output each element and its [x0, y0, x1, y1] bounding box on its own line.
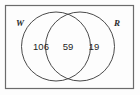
region-count-intersection: 59 — [63, 41, 74, 52]
set-label-w: W — [16, 18, 25, 28]
set-label-r: R — [113, 18, 120, 28]
venn-diagram-figure: W R 106 59 19 — [0, 0, 140, 95]
region-count-r-only: 19 — [89, 41, 100, 52]
region-count-w-only: 106 — [33, 41, 49, 52]
